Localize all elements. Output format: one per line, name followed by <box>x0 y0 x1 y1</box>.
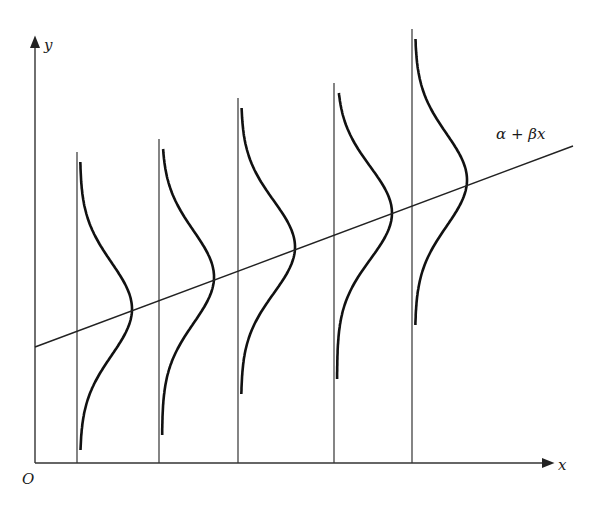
regression-line <box>35 146 573 347</box>
normal-curve-5 <box>415 39 467 325</box>
regression-diagram: y x O α + βx <box>0 0 589 507</box>
origin-label: O <box>22 470 34 488</box>
normal-curves <box>80 39 467 450</box>
y-axis-label: y <box>43 36 53 54</box>
normal-curve-2 <box>162 149 214 435</box>
normal-curve-1 <box>80 162 132 450</box>
normal-curve-3 <box>241 108 295 394</box>
regression-line-label: α + βx <box>496 125 546 143</box>
x-axis-label: x <box>558 456 567 474</box>
vertical-guides <box>77 29 412 463</box>
normal-curve-4 <box>337 93 392 379</box>
